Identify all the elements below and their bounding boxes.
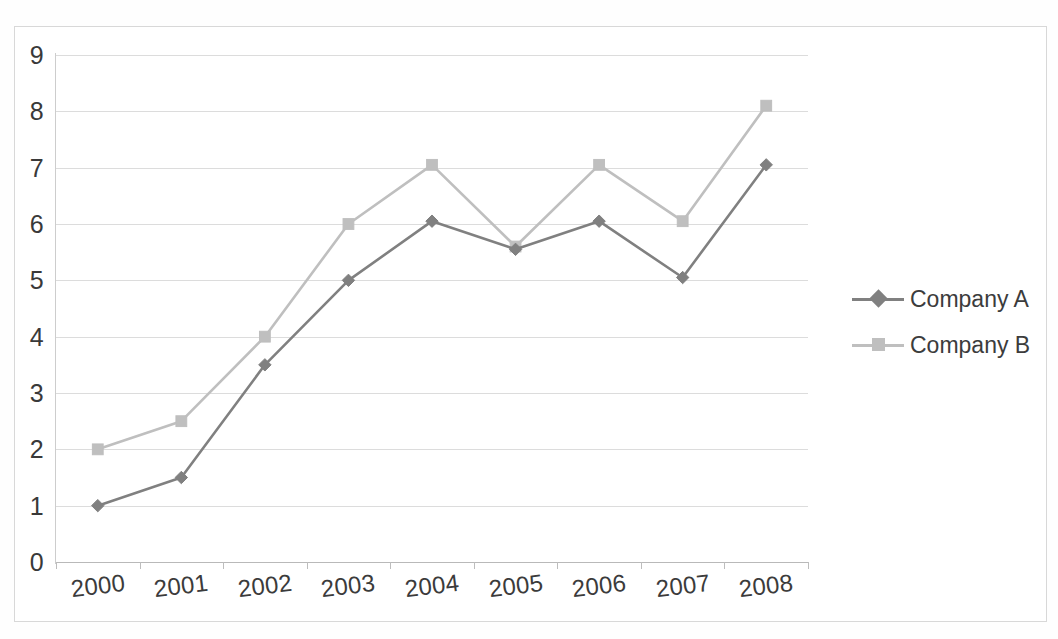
y-axis-line <box>55 53 56 564</box>
legend-label-company-b: Company B <box>910 332 1030 359</box>
gridline <box>56 55 808 56</box>
y-tick-label: 3 <box>30 379 44 408</box>
y-tick-label: 5 <box>30 266 44 295</box>
y-tick-label: 1 <box>30 491 44 520</box>
square-marker-icon <box>872 338 885 351</box>
legend-key-company-b <box>852 335 904 355</box>
gridline <box>56 337 808 338</box>
legend-label-company-a: Company A <box>910 286 1029 313</box>
y-axis-labels: 9876543210 <box>0 0 44 639</box>
x-tick-mark <box>56 562 57 569</box>
legend-item-company-b[interactable]: Company B <box>852 322 1032 368</box>
chart-legend: Company A Company B <box>852 276 1032 368</box>
gridline <box>56 224 808 225</box>
gridline <box>56 111 808 112</box>
y-tick-label: 7 <box>30 153 44 182</box>
y-tick-label: 8 <box>30 97 44 126</box>
gridline <box>56 393 808 394</box>
gridline <box>56 506 808 507</box>
y-tick-label: 2 <box>30 435 44 464</box>
y-tick-label: 0 <box>30 548 44 577</box>
gridline <box>56 280 808 281</box>
y-tick-label: 4 <box>30 322 44 351</box>
legend-key-company-a <box>852 289 904 309</box>
y-tick-label: 9 <box>30 41 44 70</box>
plot-area <box>56 55 808 562</box>
gridline <box>56 168 808 169</box>
legend-item-company-a[interactable]: Company A <box>852 276 1032 322</box>
x-axis-line <box>56 562 809 563</box>
diamond-marker-icon <box>869 289 887 307</box>
y-tick-label: 6 <box>30 210 44 239</box>
line-chart: 9876543210 20002001200220032004200520062… <box>0 0 1058 639</box>
gridline <box>56 449 808 450</box>
